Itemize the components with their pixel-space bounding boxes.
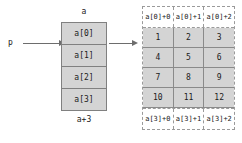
grid-footer-cell: a[3]+2	[204, 109, 234, 129]
grid-header-row: a[0]+0 a[0]+1 a[0]+2	[143, 7, 234, 28]
grid-data-cell: 10	[143, 88, 174, 108]
memory-grid: a[0]+0 a[0]+1 a[0]+2 1 2 3 4 5 6 7 8 9 1…	[142, 6, 235, 130]
grid-data-row: 1 2 3	[143, 28, 234, 48]
grid-footer-cell: a[3]+1	[174, 109, 205, 129]
arrow-right-icon	[23, 43, 60, 44]
pointer-label: p	[8, 39, 20, 47]
array-cell: a[3]	[62, 89, 106, 110]
pointer-group: p	[8, 33, 66, 53]
grid-data-row: 7 8 9	[143, 68, 234, 88]
grid-data-cell: 12	[204, 88, 234, 108]
grid-data-cell: 3	[204, 28, 234, 48]
dereference-arrow-group	[109, 36, 139, 50]
arrow-right-icon	[109, 43, 133, 44]
grid-header-cell: a[0]+0	[143, 7, 174, 27]
array-cells: a[0] a[1] a[2] a[3]	[61, 22, 107, 111]
grid-data-row: 4 5 6	[143, 48, 234, 68]
array-cell: a[2]	[62, 67, 106, 89]
grid-data-cell: 11	[174, 88, 205, 108]
array-top-label: a	[61, 8, 107, 18]
grid-data-cell: 9	[204, 68, 234, 88]
grid-header-cell: a[0]+1	[174, 7, 205, 27]
grid-footer-cell: a[3]+0	[143, 109, 174, 129]
array-group: a a[0] a[1] a[2] a[3] a+3	[61, 8, 107, 126]
grid-data-cell: 2	[174, 28, 205, 48]
grid-header-cell: a[0]+2	[204, 7, 234, 27]
grid-data-cell: 5	[174, 48, 205, 68]
array-cell: a[0]	[62, 23, 106, 45]
pointer-array-memory-diagram: p a a[0] a[1] a[2] a[3] a+3 a[0]+0 a[0]+…	[0, 0, 242, 143]
array-cell: a[1]	[62, 45, 106, 67]
grid-data-cell: 8	[174, 68, 205, 88]
grid-footer-row: a[3]+0 a[3]+1 a[3]+2	[143, 108, 234, 129]
array-bottom-label: a+3	[61, 116, 107, 126]
grid-data-cell: 7	[143, 68, 174, 88]
grid-data-cell: 1	[143, 28, 174, 48]
grid-data-row: 10 11 12	[143, 88, 234, 108]
grid-data-cell: 4	[143, 48, 174, 68]
grid-data-cell: 6	[204, 48, 234, 68]
